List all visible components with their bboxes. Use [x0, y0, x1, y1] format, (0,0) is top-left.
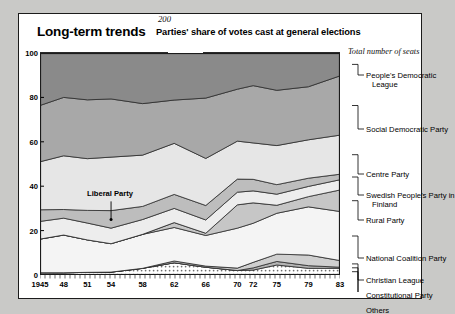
series-label: National Coalition Party — [366, 254, 446, 263]
stacked-area-chart — [40, 53, 340, 275]
x-axis: 19454851545862667072757983 — [40, 280, 350, 296]
series-label-line1: National Coalition Party — [366, 254, 446, 263]
y-axis: 100806040200 — [19, 53, 38, 275]
series-label-line1: Social Democratic Party — [366, 125, 448, 134]
y-axis-tick-label: 20 — [30, 227, 38, 236]
plot-area — [40, 53, 340, 275]
chart-subtitle: Parties' share of votes cast at general … — [156, 27, 361, 37]
x-axis-tick-label: 58 — [138, 280, 146, 289]
series-label: Social Democratic Party — [366, 125, 448, 134]
x-axis-tick-label: 54 — [107, 280, 115, 289]
series-label: Christian League — [366, 276, 424, 285]
callout-anchor-dot — [110, 218, 113, 221]
x-axis-tick-label: 1945 — [32, 280, 49, 289]
x-axis-tick-label: 75 — [273, 280, 281, 289]
series-label: Rural Party — [366, 216, 404, 225]
seats-200-label: 200 — [147, 14, 182, 24]
y-axis-tick-label: 40 — [30, 182, 38, 191]
x-axis-tick-label: 66 — [202, 280, 210, 289]
x-axis-tick-label: 48 — [59, 280, 67, 289]
x-axis-ticks — [40, 275, 340, 280]
x-axis-tick-label: 83 — [336, 280, 344, 289]
liberal-party-callout-label: Liberal Party — [87, 189, 133, 198]
y-axis-tick-label: 80 — [30, 93, 38, 102]
series-label-line1: Christian League — [366, 276, 424, 285]
label-leader-lines — [352, 62, 366, 292]
series-label-line1: Constitutional Party — [366, 291, 433, 300]
x-axis-tick-label: 62 — [170, 280, 178, 289]
series-label-line1: Rural Party — [366, 216, 404, 225]
chart-card: Long-term trends Parties' share of votes… — [18, 13, 422, 299]
series-label-line1: People's Democratic — [366, 71, 436, 80]
y-axis-tick-label: 100 — [25, 49, 38, 58]
x-axis-tick-label: 51 — [83, 280, 91, 289]
x-axis-tick-label: 70 — [233, 280, 241, 289]
y-axis-tick-label: 60 — [30, 138, 38, 147]
page-title: Long-term trends — [37, 24, 146, 39]
series-label-line2: Finland — [366, 200, 455, 209]
series-labels: People's DemocraticLeagueSocial Democrat… — [352, 62, 444, 287]
x-axis-tick-label: 72 — [249, 280, 257, 289]
x-axis-tick-label: 79 — [304, 280, 312, 289]
series-label: Constitutional Party — [366, 291, 433, 300]
series-label-line1: Centre Party — [366, 170, 409, 179]
series-label: Swedish People's Party inFinland — [366, 191, 455, 210]
series-label-line2: League — [366, 80, 436, 89]
y-axis-tick-label: 0 — [34, 271, 38, 280]
series-label: People's DemocraticLeague — [366, 71, 436, 90]
series-label-line1: Swedish People's Party in — [366, 191, 455, 200]
series-label: Centre Party — [366, 170, 409, 179]
series-label: Others — [366, 306, 389, 314]
total-seats-note: Total number of seats — [348, 47, 419, 56]
series-label-line1: Others — [366, 306, 389, 314]
